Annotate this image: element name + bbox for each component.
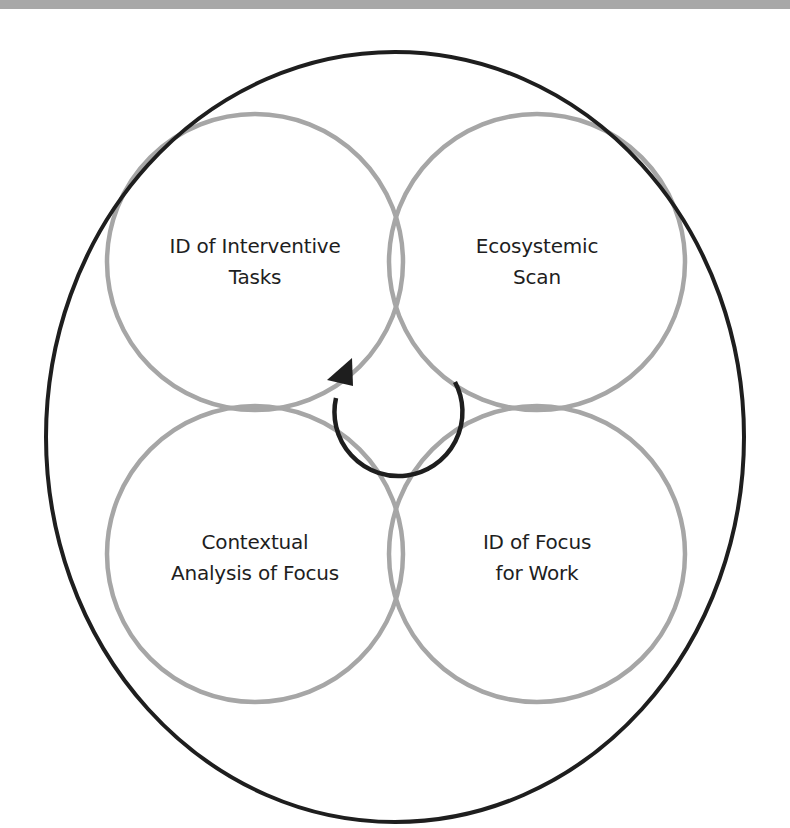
- label-bottom-left: Contextual Analysis of Focus: [135, 527, 375, 589]
- label-line: Tasks: [135, 262, 375, 293]
- cycle-diagram: [0, 0, 790, 828]
- outer-boundary-ellipse: [46, 52, 744, 822]
- label-line: Contextual: [135, 527, 375, 558]
- label-line: for Work: [417, 558, 657, 589]
- label-line: ID of Focus: [417, 527, 657, 558]
- label-top-right: Ecosystemic Scan: [417, 231, 657, 293]
- label-bottom-right: ID of Focus for Work: [417, 527, 657, 589]
- label-line: Scan: [417, 262, 657, 293]
- label-line: ID of Interventive: [135, 231, 375, 262]
- label-line: Analysis of Focus: [135, 558, 375, 589]
- label-line: Ecosystemic: [417, 231, 657, 262]
- label-top-left: ID of Interventive Tasks: [135, 231, 375, 293]
